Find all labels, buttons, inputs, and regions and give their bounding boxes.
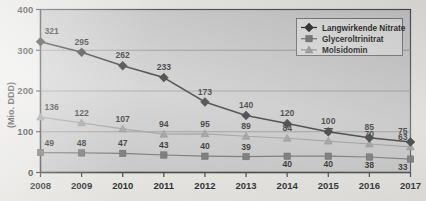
x-axis-tick-labels: 2008200920102011201220132014201520162017: [30, 180, 421, 191]
data-label: 89: [241, 121, 251, 131]
y-tick-label: 100: [17, 126, 33, 137]
x-tick-label: 2011: [154, 180, 175, 191]
x-tick-label: 2016: [359, 180, 380, 191]
square-marker-icon: [37, 149, 43, 155]
square-marker-icon: [78, 150, 84, 156]
data-label: 40: [323, 159, 333, 169]
square-marker-icon: [407, 156, 413, 162]
data-label: 140: [239, 100, 254, 110]
data-label: 95: [200, 119, 210, 129]
data-label: 38: [365, 160, 375, 170]
chart-container: 0100200300400 20082009201020112012201320…: [0, 0, 426, 201]
data-label: 47: [118, 138, 128, 148]
data-label: 233: [157, 62, 172, 72]
legend-label: Glyceroltrinitrat: [322, 35, 384, 44]
chart-legend: Langwirkende NitrateGlyceroltrinitratMol…: [297, 19, 406, 56]
x-tick-label: 2010: [112, 180, 133, 191]
data-label: 39: [241, 142, 251, 152]
x-tick-label: 2017: [400, 180, 421, 191]
data-label: 77: [323, 126, 333, 136]
y-tick-label: 400: [17, 4, 33, 15]
y-axis-tick-labels: 0100200300400: [17, 4, 33, 178]
y-axis-title: (Mio. DDD): [6, 82, 16, 128]
legend-label: Langwirkende Nitrate: [322, 24, 406, 33]
data-label: 107: [116, 114, 131, 124]
data-label: 40: [200, 141, 210, 151]
data-label: 173: [198, 87, 213, 97]
data-label: 295: [74, 37, 89, 47]
x-tick-label: 2012: [194, 180, 215, 191]
x-tick-label: 2009: [71, 180, 92, 191]
data-label: 48: [77, 138, 87, 148]
square-marker-icon: [243, 153, 249, 159]
data-label: 94: [159, 119, 169, 129]
data-label: 49: [45, 138, 55, 148]
data-label: 120: [280, 108, 295, 118]
y-tick-label: 200: [17, 85, 33, 96]
square-marker-icon: [202, 153, 208, 159]
x-tick-label: 2013: [235, 180, 256, 191]
square-marker-icon: [120, 150, 126, 156]
data-label: 136: [45, 102, 60, 112]
square-marker-icon: [306, 36, 312, 42]
data-label: 262: [116, 50, 131, 60]
data-label: 84: [282, 123, 292, 133]
nitrate-usage-line-chart: 0100200300400 20082009201020112012201320…: [0, 0, 426, 201]
x-tick-label: 2008: [30, 180, 51, 191]
data-label: 43: [159, 140, 169, 150]
data-label: 85: [365, 122, 375, 132]
y-tick-label: 0: [28, 167, 33, 178]
y-tick-label: 300: [17, 45, 33, 56]
x-tick-label: 2015: [318, 180, 340, 191]
data-label: 40: [282, 159, 292, 169]
data-label: 321: [45, 26, 60, 36]
data-label: 122: [74, 108, 89, 118]
legend-label: Molsidomin: [322, 46, 367, 55]
x-tick-label: 2014: [277, 180, 299, 191]
data-label: 33: [398, 162, 408, 172]
data-label: 100: [321, 116, 336, 126]
square-marker-icon: [161, 152, 167, 158]
data-label: 75: [398, 126, 408, 136]
